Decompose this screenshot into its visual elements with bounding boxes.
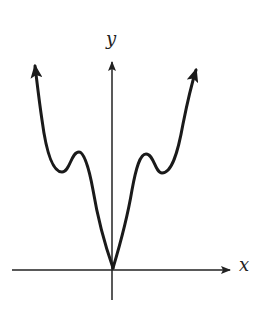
curve-left-branch <box>35 66 113 268</box>
x-axis-label: x <box>239 256 249 274</box>
y-axis-label: y <box>106 30 116 48</box>
curve-right-branch <box>113 70 196 268</box>
function-graph <box>0 0 272 320</box>
